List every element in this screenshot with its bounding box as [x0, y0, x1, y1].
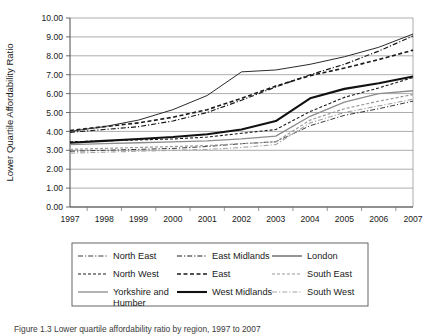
- legend-label-east-midlands: East Midlands: [212, 251, 270, 261]
- svg-text:2005: 2005: [335, 214, 354, 224]
- legend-label-south-west: South West: [307, 287, 355, 297]
- svg-text:10.00: 10.00: [41, 13, 63, 23]
- svg-text:9.00: 9.00: [46, 32, 63, 42]
- legend-label-yorkshire-and-humber: Yorkshire and: [113, 287, 169, 297]
- svg-text:1998: 1998: [95, 214, 114, 224]
- svg-text:6.00: 6.00: [46, 89, 63, 99]
- legend-label-west-midlands: West Midlands: [212, 287, 272, 297]
- svg-text:8.00: 8.00: [46, 51, 63, 61]
- svg-text:1997: 1997: [60, 214, 79, 224]
- legend-label-north-west: North West: [113, 269, 159, 279]
- legend-label-north-east: North East: [113, 251, 157, 261]
- legend-label-east: East: [212, 269, 231, 279]
- svg-text:2002: 2002: [232, 214, 251, 224]
- y-axis-title: Lower Quartile Affordability Ratio: [4, 43, 15, 181]
- svg-text:3.00: 3.00: [46, 145, 63, 155]
- figure-caption: Figure 1.3 Lower quartile affordability …: [14, 324, 261, 334]
- svg-text:4.00: 4.00: [46, 127, 63, 137]
- legend-label-south-east: South East: [307, 269, 352, 279]
- svg-text:5.00: 5.00: [46, 108, 63, 118]
- svg-text:1.00: 1.00: [46, 183, 63, 193]
- svg-text:2001: 2001: [198, 214, 217, 224]
- svg-text:Lower Quartile Affordability R: Lower Quartile Affordability Ratio: [4, 43, 15, 181]
- svg-text:2007: 2007: [403, 214, 422, 224]
- svg-text:1999: 1999: [129, 214, 148, 224]
- svg-text:2004: 2004: [301, 214, 320, 224]
- svg-text:2000: 2000: [163, 214, 182, 224]
- legend-label-london: London: [307, 251, 338, 261]
- svg-text:7.00: 7.00: [46, 70, 63, 80]
- chart-legend: North EastNorth WestYorkshire andHumberE…: [72, 243, 368, 308]
- svg-text:2.00: 2.00: [46, 164, 63, 174]
- svg-text:0.00: 0.00: [46, 202, 63, 212]
- svg-text:2006: 2006: [369, 214, 388, 224]
- legend-label-yorkshire-and-humber: Humber: [113, 298, 146, 308]
- svg-text:2003: 2003: [266, 214, 285, 224]
